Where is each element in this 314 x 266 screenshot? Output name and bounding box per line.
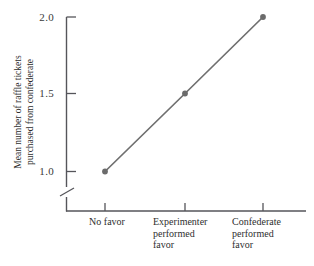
x-tick-label-2: Confederate performed favor (232, 216, 304, 251)
x-tick-label-0: No favor (76, 216, 138, 228)
x-tick-label-0-line-1: No favor (76, 216, 138, 228)
x-tick-label-2-line-2: performed (232, 228, 304, 240)
data-point-2 (260, 14, 266, 20)
x-tick-label-2-line-1: Confederate (232, 216, 304, 228)
data-point-1 (182, 91, 188, 97)
data-series-group (102, 14, 266, 174)
x-tick-label-1-line-2: performed (153, 228, 223, 240)
x-tick-label-1: Experimenter performed favor (153, 216, 223, 251)
x-tick-label-1-line-3: favor (153, 239, 223, 251)
x-tick-label-1-line-1: Experimenter (153, 216, 223, 228)
data-point-0 (102, 169, 108, 175)
x-tick-label-2-line-3: favor (232, 239, 304, 251)
axes-group (60, 17, 306, 212)
chart-figure: Mean number of raffle tickets purchased … (0, 0, 314, 266)
y-axis-break-mark (60, 188, 74, 196)
